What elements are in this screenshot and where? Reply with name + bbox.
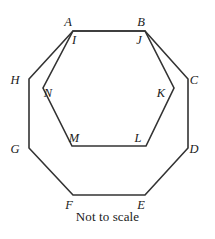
geometry-figure: A B C D E F G H I J K L M N bbox=[0, 0, 215, 239]
vertex-label-K: K bbox=[156, 86, 166, 100]
vertex-label-J: J bbox=[136, 33, 143, 47]
inner-hexagon bbox=[43, 31, 174, 146]
vertex-label-B: B bbox=[137, 15, 145, 29]
vertex-label-C: C bbox=[190, 73, 199, 87]
figure-caption: Not to scale bbox=[0, 209, 215, 225]
vertex-label-H: H bbox=[9, 73, 20, 87]
vertex-label-D: D bbox=[188, 142, 198, 156]
vertex-label-N: N bbox=[43, 86, 53, 100]
vertex-label-M: M bbox=[68, 131, 80, 145]
vertex-label-I: I bbox=[71, 33, 77, 47]
vertex-label-A: A bbox=[63, 15, 72, 29]
vertex-label-L: L bbox=[134, 131, 142, 145]
outer-octagon bbox=[29, 31, 188, 195]
vertex-label-G: G bbox=[10, 142, 19, 156]
